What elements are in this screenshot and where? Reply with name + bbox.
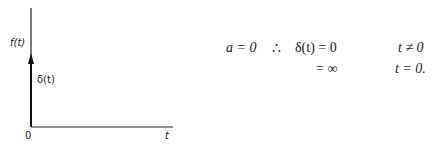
impulse-plot <box>0 0 200 149</box>
origin-label: 0 <box>25 130 31 141</box>
delta-equals-infinity: = ∞ <box>316 61 337 77</box>
condition-t-not-zero: t ≠ 0 <box>398 40 424 56</box>
therefore-symbol: ∴ <box>272 40 281 57</box>
impulse-label: δ(t) <box>37 74 55 85</box>
condition-a-equals-zero: a = 0 <box>226 40 256 56</box>
delta-equals-zero: δ(t) = 0 <box>295 40 337 56</box>
impulse-function-figure: f(t) δ(t) 0 t <box>0 0 200 149</box>
condition-t-equals-zero: t = 0. <box>395 61 426 77</box>
impulse-arrow-icon <box>28 53 34 64</box>
x-axis-label: t <box>165 130 169 141</box>
y-axis-label: f(t) <box>10 37 25 48</box>
